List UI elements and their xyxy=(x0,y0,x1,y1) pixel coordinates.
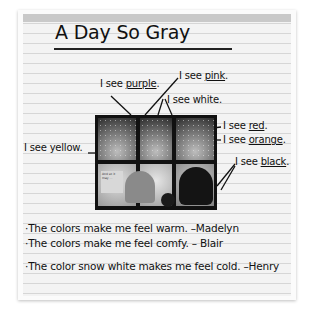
label-red: I see red. xyxy=(223,120,267,131)
child-figure xyxy=(179,167,213,205)
child-figure xyxy=(161,193,175,207)
label-orange: I see orange. xyxy=(223,134,286,145)
statement-henry: ·The color snow white makes me feel cold… xyxy=(25,260,279,272)
book-text-card: And so it may ... xyxy=(101,171,123,193)
chart-paper: A Day So Gray I see purple. I see pink. … xyxy=(23,14,291,296)
statement-madelyn: ·The colors make me feel warm. –Madelyn xyxy=(25,222,239,234)
label-black: I see black. xyxy=(235,156,289,167)
label-yellow: I see yellow. xyxy=(24,142,82,153)
label-pink: I see pink. xyxy=(179,70,228,81)
window-pane xyxy=(140,118,172,160)
child-figure xyxy=(125,171,155,203)
window-pane xyxy=(98,118,136,160)
statement-blair: ·The colors make me feel comfy. – Blair xyxy=(25,237,223,249)
book-illustration: And so it may ... xyxy=(95,115,217,210)
window-pane xyxy=(176,118,214,160)
label-purple: I see purple. xyxy=(100,78,160,89)
label-white: I see white. xyxy=(167,94,222,105)
